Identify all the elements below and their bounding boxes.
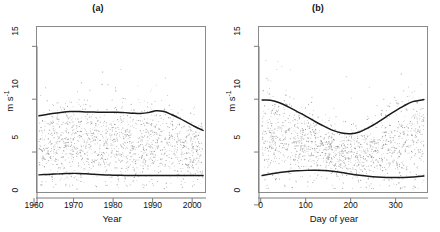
panel-a-title: (a) xyxy=(0,3,208,13)
x-tick-label: 200 xyxy=(331,200,371,210)
panel-b-x-axis-title: Day of year xyxy=(224,213,440,224)
panel-b: (b) 051015 0100200300 m s-1 Day of year xyxy=(220,0,440,232)
panel-a-plot-svg xyxy=(37,27,205,192)
panel-b-lower-quantile-curve xyxy=(262,170,424,177)
panel-b-y-axis-title: m s-1 xyxy=(225,71,237,131)
panel-a-y-axis-title: m s-1 xyxy=(3,71,15,131)
y-tick-label: 0 xyxy=(232,181,242,199)
panel-a-upper-quantile-curve xyxy=(39,111,203,131)
panel-a-x-axis-title: Year xyxy=(2,213,222,224)
panel-b-plot-area xyxy=(258,26,428,193)
x-tick-label: 1980 xyxy=(93,200,133,210)
x-tick-label: 1990 xyxy=(133,200,173,210)
panel-b-y-axis-title-exponent: -1 xyxy=(225,90,232,96)
panel-a: (a) 051015 19601970198019902000 m s-1 Ye… xyxy=(0,0,220,232)
panel-b-title: (b) xyxy=(208,3,428,13)
panel-b-plot-svg xyxy=(259,27,427,192)
panel-a-scatter-points xyxy=(38,69,203,190)
x-tick-label: 300 xyxy=(376,200,416,210)
panel-b-scatter-points xyxy=(262,60,425,189)
panel-a-plot-area xyxy=(36,26,206,193)
panel-a-y-axis-title-text: m s xyxy=(4,97,15,112)
y-tick-label: 15 xyxy=(10,22,20,40)
figure-container: (a) 051015 19601970198019902000 m s-1 Ye… xyxy=(0,0,440,232)
x-tick-label: 2000 xyxy=(172,200,212,210)
x-tick-label: 1960 xyxy=(14,200,54,210)
x-tick-label: 1970 xyxy=(54,200,94,210)
y-tick-label: 0 xyxy=(10,181,20,199)
y-tick-label: 15 xyxy=(232,22,242,40)
panel-a-y-axis-title-exponent: -1 xyxy=(3,90,10,96)
panel-b-y-axis-title-text: m s xyxy=(226,97,237,112)
x-tick-label: 100 xyxy=(286,200,326,210)
x-tick-label: 0 xyxy=(241,200,281,210)
